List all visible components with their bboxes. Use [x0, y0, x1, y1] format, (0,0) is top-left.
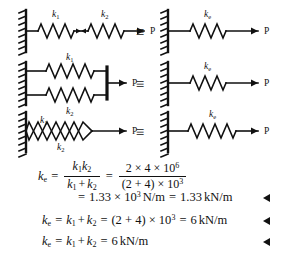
- unit-nm: N/m: [141, 190, 165, 205]
- equivalence-symbol-row1: ≡: [136, 24, 144, 40]
- force-label-row2-right: P: [264, 78, 269, 88]
- force-label-row1-left: P: [150, 26, 155, 36]
- ke-symbol-2: ke: [42, 213, 51, 228]
- result-value-1: 1.33 × 103: [89, 190, 141, 205]
- fraction-numerator: k1k2: [70, 160, 95, 176]
- unit-knm-3: kN/m: [118, 234, 148, 249]
- equation-line-4: ke = k1 + k2 = 6 kN/m: [42, 234, 148, 249]
- fraction-ratio: k1k2 k1+k2: [64, 160, 99, 193]
- unit-knm-1: kN/m: [202, 190, 232, 205]
- equals-8: =: [51, 234, 66, 249]
- figure-page: ≡ ≡ ≡ k1 k2 P ke P k1 k2 P ke: [0, 0, 281, 266]
- label-k2-row2: k2: [66, 106, 73, 117]
- label-k1-row1: k1: [52, 9, 59, 20]
- equation-line-1: ke = k1k2 k1+k2 = 2 × 4 × 106 (2 + 4) × …: [38, 160, 188, 193]
- k2-term-4: k2: [87, 234, 97, 249]
- label-ke-row1: ke: [204, 9, 211, 20]
- row-parallel-overlap-left: [19, 112, 126, 157]
- force-label-row3-left: P: [132, 126, 137, 136]
- ke-symbol-3: ke: [42, 234, 51, 249]
- equals-2: =: [102, 169, 117, 184]
- row-parallel-stacked-left: [19, 62, 126, 107]
- k1-term-4: k1: [66, 234, 76, 249]
- equation-line-3: ke = k1 + k2 = (2 + 4) × 103 = 6 kN/m: [42, 213, 227, 228]
- force-label-row1-right: P: [264, 26, 269, 36]
- values-numerator: 2 × 4 × 106: [123, 162, 183, 176]
- plus-3: +: [76, 213, 87, 228]
- result-value-2: 1.33: [180, 190, 202, 205]
- plus-4: +: [76, 234, 87, 249]
- spring-diagrams: ≡ ≡ ≡ k1 k2 P ke P k1 k2 P ke: [0, 0, 281, 160]
- equals-9: =: [96, 234, 111, 249]
- fraction-values: 2 × 4 × 106 (2 + 4) × 103: [119, 162, 187, 192]
- equals-4: =: [165, 190, 180, 205]
- answer-marker-icon-1: [263, 194, 270, 202]
- label-k1-row3: k1: [40, 115, 47, 126]
- label-ke-row3: ke: [209, 109, 216, 120]
- answer-marker-icon-3: [263, 238, 270, 246]
- unit-knm-2: kN/m: [197, 213, 227, 228]
- answer-marker-icon-2: [263, 217, 270, 225]
- label-k2-row1: k2: [101, 9, 108, 20]
- equals-6: =: [96, 213, 111, 228]
- label-ke-row2: ke: [204, 61, 211, 72]
- force-label-row2-left: P: [132, 78, 137, 88]
- label-k2-row3: k2: [57, 142, 64, 153]
- equals-5: =: [51, 213, 66, 228]
- force-label-row3-right: P: [264, 126, 269, 136]
- equals-7: =: [175, 213, 190, 228]
- k2-term-3: k2: [87, 213, 97, 228]
- expr-3: (2 + 4) × 103: [111, 213, 175, 228]
- equation-line-2: = 1.33 × 103 N/m = 1.33 kN/m: [74, 190, 232, 205]
- equals-3: =: [74, 190, 89, 205]
- label-k1-row2: k1: [66, 52, 73, 63]
- equations-block: ke = k1k2 k1+k2 = 2 × 4 × 106 (2 + 4) × …: [0, 158, 281, 266]
- k1-term-3: k1: [66, 213, 76, 228]
- ke-symbol: ke: [38, 169, 47, 184]
- row-series-left: [19, 10, 144, 55]
- equals-1: =: [47, 169, 62, 184]
